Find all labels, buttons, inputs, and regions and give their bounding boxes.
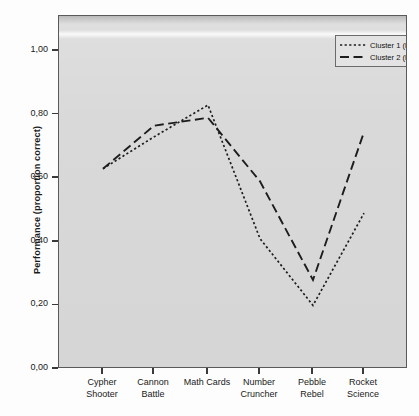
- x-axis-tick-label-line: Rocket: [318, 377, 408, 389]
- y-axis-tick-label: 0,20: [30, 298, 48, 308]
- legend-item-cluster-1: Cluster 1 (low gaming skills): [340, 39, 407, 51]
- x-axis-tick-mark: [362, 368, 364, 374]
- x-axis-tick-mark: [258, 368, 260, 374]
- x-axis-tick-mark: [101, 368, 103, 374]
- legend-swatch-dashed: [340, 53, 366, 61]
- y-axis-tick-label: 1,00: [30, 44, 48, 54]
- y-axis-tick-label: 0,80: [30, 108, 48, 118]
- series-line-cluster-2: [103, 118, 364, 280]
- x-axis-tick-label: RocketScience: [318, 377, 408, 400]
- legend-label-cluster-1: Cluster 1 (low gaming skills): [370, 41, 407, 50]
- y-axis-tick-label: 0,60: [30, 171, 48, 181]
- y-axis-tick-label: 0,00: [30, 362, 48, 372]
- series-lines: [59, 16, 407, 368]
- x-axis-tick-label-line: Science: [318, 389, 408, 401]
- y-axis-tick-label: 0,40: [30, 235, 48, 245]
- series-line-cluster-1: [103, 105, 364, 305]
- x-axis-tick-mark: [206, 368, 208, 374]
- x-axis-tick-mark: [152, 368, 154, 374]
- legend-item-cluster-2: Cluster 2 (high gaming skills): [340, 51, 407, 63]
- legend: Cluster 1 (low gaming skills) Cluster 2 …: [335, 35, 407, 67]
- x-axis-tick-label-line: Battle: [108, 389, 198, 401]
- line-chart: Performance (proportion correct) 0,000,2…: [0, 0, 419, 416]
- x-axis-tick-mark: [311, 368, 313, 374]
- plot-area: Cluster 1 (low gaming skills) Cluster 2 …: [58, 15, 407, 368]
- legend-swatch-dotted: [340, 41, 366, 49]
- legend-label-cluster-2: Cluster 2 (high gaming skills): [370, 53, 407, 62]
